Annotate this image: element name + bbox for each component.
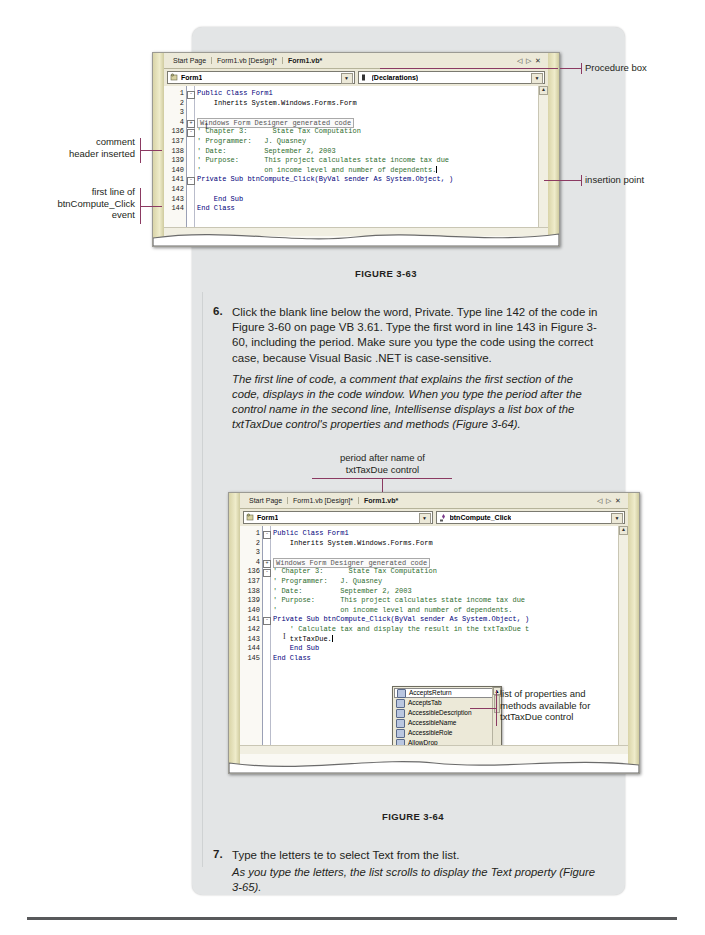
text-caret (436, 166, 437, 173)
tab-start-page[interactable]: Start Page (244, 497, 287, 504)
code-line-text: Public Class Form1 (197, 89, 273, 99)
tab-form1-design[interactable]: Form1.vb [Design]* (287, 497, 358, 504)
code-line: 140' on income level and number of depen… (164, 166, 538, 176)
code-line-text: txtTaxDue. (273, 635, 333, 645)
code-line-number: 3 (164, 108, 184, 118)
procedure-combo-box[interactable]: btnCompute_Click ▼ (436, 511, 626, 524)
code-line-text: ' Date: September 2, 2003 (273, 587, 412, 597)
intellisense-item-label: AcceptsReturn (409, 688, 452, 698)
step-7-number: 7. (213, 848, 223, 860)
code-line-text: ' on income level and number of dependen… (197, 166, 437, 176)
chevron-down-icon[interactable]: ▼ (341, 73, 353, 84)
code-line-number: 137 (240, 577, 260, 587)
code-line-number: 2 (164, 99, 184, 109)
code-line-text: Inherits System.Windows.Forms.Form (197, 99, 357, 109)
page-bottom-rule (27, 917, 677, 920)
code-line: 1-Public Class Form1 (164, 89, 538, 99)
class-combo-box[interactable]: Form1 ▼ (243, 511, 433, 524)
close-icon[interactable]: ✕ (615, 497, 621, 505)
code-line: 4+Windows Form Designer generated code (240, 558, 618, 568)
intellisense-item[interactable]: AcceptsTab (394, 698, 500, 708)
code-line-text: ' Chapter 3: State Tax Computation (273, 567, 437, 577)
code-line-number: 138 (164, 147, 184, 157)
declarations-icon (361, 73, 370, 82)
code-line-text: Public Class Form1 (273, 529, 349, 539)
intellisense-list-box[interactable]: AcceptsReturnAcceptsTabAccessibleDescrip… (392, 686, 502, 754)
code-line-number: 139 (240, 596, 260, 606)
code-line-number: 144 (240, 644, 260, 654)
code-line-number: 4 (240, 558, 260, 568)
intellisense-item[interactable]: AccessibleName (394, 718, 500, 728)
code-line: 136-' Chapter 3: State Tax Computation (240, 567, 618, 577)
code-lines-1: 1-Public Class Form12 Inherits System.Wi… (164, 89, 538, 214)
intellisense-item-label: AccessibleRole (408, 728, 452, 738)
class-icon (246, 513, 255, 522)
code-line: 143 End Sub (164, 195, 538, 205)
chevron-down-icon[interactable]: ▼ (531, 73, 543, 84)
intellisense-item[interactable]: AcceptsReturn (394, 688, 500, 698)
figure-3-64-caption: FIGURE 3-64 (382, 811, 444, 822)
callout-procedure-box-tick (581, 63, 582, 74)
chevron-down-icon[interactable]: ▼ (611, 513, 623, 524)
code-line-number: 138 (240, 587, 260, 597)
code-line-text: ' Date: September 2, 2003 (197, 147, 336, 157)
tab-form1-design[interactable]: Form1.vb [Design]* (211, 57, 282, 64)
code-line: 143 txtTaxDue. (240, 635, 618, 645)
code-line-number: 142 (240, 625, 260, 635)
figure-3-63-window: Start Page Form1.vb [Design]* Form1.vb* … (152, 52, 560, 247)
tab-next-icon[interactable]: ▷ (526, 57, 531, 65)
code-line-text: End Sub (197, 195, 243, 205)
tab-form1-vb[interactable]: Form1.vb* (282, 57, 327, 64)
scroll-up-icon[interactable]: ▲ (539, 86, 548, 95)
procedure-box-pointer-line (380, 68, 558, 69)
callout-insertion-point-leader (544, 180, 582, 181)
tab-form1-vb[interactable]: Form1.vb* (358, 497, 403, 504)
close-icon[interactable]: ✕ (535, 57, 541, 65)
code-line-text: ' Programmer: J. Quasney (197, 137, 306, 147)
callout-procedure-box: Procedure box (585, 62, 647, 74)
code-line: 2 Inherits System.Windows.Forms.Form (164, 99, 538, 109)
tab-prev-icon[interactable]: ◁ (597, 497, 602, 505)
step-7-text: Type the letters te to select Text from … (232, 848, 598, 863)
code-editor-pane-1[interactable]: 1-Public Class Form12 Inherits System.Wi… (164, 86, 548, 236)
code-line-text: ' Purpose: This project calculates state… (273, 596, 525, 606)
textbook-page: Start Page Form1.vb [Design]* Form1.vb* … (0, 0, 705, 935)
window-right-edge (628, 493, 639, 773)
tab-start-page[interactable]: Start Page (168, 57, 211, 64)
code-line: 144 End Sub (240, 644, 618, 654)
vertical-scrollbar[interactable]: ▲ (538, 86, 548, 236)
intellisense-item-label: AccessibleDescription (408, 708, 472, 718)
code-line-number: 141 (240, 615, 260, 625)
callout-period-after-name: period after name oftxtTaxDue control (295, 452, 470, 475)
editor-combo-row: Form1 ▼ (Declarations) ▼ (164, 69, 548, 86)
property-icon (396, 699, 405, 708)
procedure-combo-box[interactable]: (Declarations) ▼ (358, 71, 546, 84)
code-line-text: ' Chapter 3: State Tax Computation (197, 127, 361, 137)
code-line: 137' Programmer: J. Quasney (240, 577, 618, 587)
class-combo-value: Form1 (181, 74, 202, 81)
code-line-number: 145 (240, 654, 260, 664)
chevron-down-icon[interactable]: ▼ (419, 513, 431, 524)
class-combo-box[interactable]: Form1 ▼ (167, 71, 355, 84)
code-line: 140' on income level and number of depen… (240, 606, 618, 616)
property-icon (396, 709, 405, 718)
code-line: 139' Purpose: This project calculates st… (240, 596, 618, 606)
code-line-text: Private Sub btnCompute_Click(ByVal sende… (197, 175, 453, 185)
editor-tab-strip: Start Page Form1.vb [Design]* Form1.vb* … (164, 53, 548, 69)
code-line-text: Private Sub btnCompute_Click(ByVal sende… (273, 615, 529, 625)
code-line-text: ' Purpose: This project calculates state… (197, 156, 449, 166)
code-line: 138' Date: September 2, 2003 (164, 147, 538, 157)
intellisense-item[interactable]: AccessibleDescription (394, 708, 500, 718)
property-icon (396, 729, 405, 738)
callout-properties-leader (470, 708, 497, 709)
code-line: 144End Class (164, 204, 538, 214)
step-6: 6. Click the blank line below the word, … (213, 305, 598, 433)
callout-first-line-leader (140, 206, 162, 207)
scroll-up-icon[interactable]: ▲ (619, 526, 628, 535)
intellisense-item[interactable]: AccessibleRole (394, 728, 500, 738)
code-line: 141-Private Sub btnCompute_Click(ByVal s… (240, 615, 618, 625)
callout-comment-header-leader (140, 150, 162, 151)
code-line-text: ' Programmer: J. Quasney (273, 577, 382, 587)
tab-prev-icon[interactable]: ◁ (517, 57, 522, 65)
tab-next-icon[interactable]: ▷ (606, 497, 611, 505)
